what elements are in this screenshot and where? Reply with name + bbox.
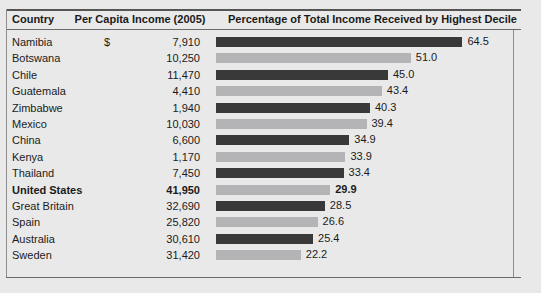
per-capita-income-value: 1,170 <box>70 149 200 165</box>
country-name: Kenya <box>12 149 43 165</box>
bar-value-label: 29.9 <box>335 184 356 194</box>
bar-value-label: 40.3 <box>375 102 396 112</box>
income-number: 7,910 <box>172 36 200 48</box>
table-row: Kenya1,17033.9 <box>0 149 541 165</box>
country-name: Guatemala <box>12 83 66 99</box>
per-capita-income-value: 30,610 <box>70 231 200 247</box>
per-capita-income-value: $7,910 <box>70 34 200 50</box>
per-capita-income-value: 10,030 <box>70 116 200 132</box>
per-capita-income-value: 7,450 <box>70 165 200 181</box>
per-capita-income-value: 10,250 <box>70 50 200 66</box>
table-row: Namibia$7,91064.5 <box>0 34 541 50</box>
percentage-bar <box>216 135 349 145</box>
per-capita-income-value: 41,950 <box>70 182 200 198</box>
bar-value-label: 25.4 <box>318 233 339 243</box>
income-number: 4,410 <box>172 85 200 97</box>
country-name: Zimbabwe <box>12 100 63 116</box>
bar-value-label: 43.4 <box>387 85 408 95</box>
income-number: 10,030 <box>166 118 200 130</box>
bar-container: 33.4 <box>216 168 370 178</box>
bar-value-label: 64.5 <box>467 36 488 46</box>
table-row: Guatemala4,41043.4 <box>0 83 541 99</box>
bar-container: 40.3 <box>216 103 396 113</box>
country-name: Great Britain <box>12 198 74 214</box>
table-row: Mexico10,03039.4 <box>0 116 541 132</box>
country-name: Mexico <box>12 116 47 132</box>
income-number: 41,950 <box>166 184 200 196</box>
currency-symbol: $ <box>104 34 110 50</box>
bar-value-label: 45.0 <box>393 69 414 79</box>
country-name: Botswana <box>12 50 60 66</box>
income-number: 11,470 <box>167 69 200 81</box>
percentage-bar <box>216 70 388 80</box>
country-name: Sweden <box>12 247 52 263</box>
percentage-bar <box>216 152 345 162</box>
table-row: Great Britain32,69028.5 <box>0 198 541 214</box>
per-capita-income-value: 31,420 <box>70 247 200 263</box>
bar-value-label: 28.5 <box>330 200 351 210</box>
per-capita-income-value: 1,940 <box>70 100 200 116</box>
income-number: 1,940 <box>172 102 200 114</box>
bar-container: 45.0 <box>216 70 414 80</box>
percentage-bar <box>216 37 462 47</box>
country-name: China <box>12 132 41 148</box>
country-name: Thailand <box>12 165 54 181</box>
bar-container: 43.4 <box>216 86 408 96</box>
income-number: 25,820 <box>166 216 200 228</box>
bar-container: 28.5 <box>216 201 351 211</box>
percentage-bar <box>216 234 313 244</box>
column-header-percentage: Percentage of Total Income Received by H… <box>228 10 513 29</box>
column-header-country: Country <box>12 10 54 29</box>
income-number: 1,170 <box>172 151 200 163</box>
bar-value-label: 39.4 <box>372 118 393 128</box>
income-number: 32,690 <box>166 200 200 212</box>
bar-container: 22.2 <box>216 250 327 260</box>
percentage-bar <box>216 86 382 96</box>
bar-container: 39.4 <box>216 119 393 129</box>
income-number: 31,420 <box>166 249 200 261</box>
income-number: 6,600 <box>172 134 200 146</box>
per-capita-income-value: 32,690 <box>70 198 200 214</box>
income-distribution-table-figure: Country Per Capita Income (2005) Percent… <box>0 0 541 293</box>
percentage-bar <box>216 201 325 211</box>
table-body: Namibia$7,91064.5Botswana10,25051.0Chile… <box>0 34 541 263</box>
per-capita-income-value: 11,470 <box>70 67 200 83</box>
table-row: Chile11,47045.0 <box>0 67 541 83</box>
income-number: 7,450 <box>172 167 200 179</box>
bar-value-label: 33.9 <box>350 151 371 161</box>
table-row: China6,60034.9 <box>0 132 541 148</box>
country-name: Spain <box>12 214 40 230</box>
percentage-bar <box>216 185 330 195</box>
header-bottom-rule <box>6 29 521 30</box>
per-capita-income-value: 4,410 <box>70 83 200 99</box>
income-number: 10,250 <box>166 52 200 64</box>
bar-container: 34.9 <box>216 135 376 145</box>
table-row: Thailand7,45033.4 <box>0 165 541 181</box>
bar-container: 51.0 <box>216 53 437 63</box>
bar-container: 25.4 <box>216 234 339 244</box>
percentage-bar <box>216 250 301 260</box>
percentage-bar <box>216 168 344 178</box>
table-row: Sweden31,42022.2 <box>0 247 541 263</box>
country-name: Chile <box>12 67 37 83</box>
bar-container: 29.9 <box>216 185 357 195</box>
country-name: Australia <box>12 231 55 247</box>
per-capita-income-value: 6,600 <box>70 132 200 148</box>
bottom-rule <box>6 277 521 278</box>
income-number: 30,610 <box>166 233 200 245</box>
table-header: Country Per Capita Income (2005) Percent… <box>0 10 541 29</box>
bar-value-label: 22.2 <box>306 249 327 259</box>
column-header-per-capita-income: Per Capita Income (2005) <box>70 10 210 29</box>
bar-container: 64.5 <box>216 37 489 47</box>
country-name: Namibia <box>12 34 52 50</box>
percentage-bar <box>216 53 411 63</box>
bar-value-label: 51.0 <box>416 52 437 62</box>
bar-value-label: 34.9 <box>354 134 375 144</box>
table-row: Botswana10,25051.0 <box>0 50 541 66</box>
table-row: United States41,95029.9 <box>0 182 541 198</box>
per-capita-income-value: 25,820 <box>70 214 200 230</box>
bar-container: 26.6 <box>216 217 344 227</box>
table-row: Zimbabwe1,94040.3 <box>0 100 541 116</box>
bar-value-label: 26.6 <box>323 216 344 226</box>
bar-container: 33.9 <box>216 152 372 162</box>
